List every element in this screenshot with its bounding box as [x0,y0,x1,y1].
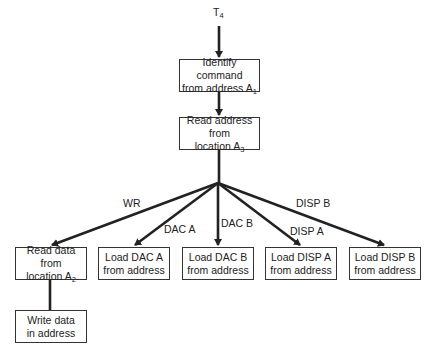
node-text-line2: location A [26,270,72,282]
node-read-data: Read data from location A2 [15,247,87,280]
node-text-line1: Load DAC A [105,251,163,264]
edge-label-disp-a: DISP A [290,225,324,237]
edge-label-disp-b: DISP B [296,197,330,209]
node-load-disp-a: Load DISP A from address [265,247,337,280]
node-text-line1: Write data [27,314,75,327]
start-label-t4: T4 [213,6,224,18]
edge-label-dac-b: DAC B [221,217,253,229]
node-subscript: 1 [253,87,257,96]
connector-lines [0,0,433,355]
node-identify-command: Identify command from address A1 [179,59,260,92]
node-text-line1: Load DAC B [189,251,247,264]
node-text-line1: Load DISP B [355,251,416,264]
node-subscript: 2 [72,275,76,284]
node-load-dac-b: Load DAC B from address [182,247,254,280]
node-text-line2: from address A [182,82,253,94]
node-load-dac-a: Load DAC A from address [98,247,170,280]
node-write-data: Write data in address [15,310,87,343]
node-read-address: Read address from location A3 [179,117,260,150]
node-subscript: 3 [240,145,244,154]
edge-label-wr: WR [123,197,141,209]
node-text-line1: Read data from [16,244,86,270]
node-text-line2: from address [103,264,164,277]
node-load-disp-b: Load DISP B from address [349,247,421,280]
edge-label-dac-a: DAC A [164,223,196,235]
node-text-line2: location A [195,140,241,152]
node-text-line2: from address [270,264,331,277]
node-text-line2: from address [187,264,248,277]
node-text-line1: Read address from [180,114,259,140]
node-text-line1: Identify command [180,56,259,82]
node-text-line2: in address [27,327,75,340]
node-text-line2: from address [354,264,415,277]
start-subscript: 4 [219,11,223,20]
node-text-line1: Load DISP A [271,251,331,264]
